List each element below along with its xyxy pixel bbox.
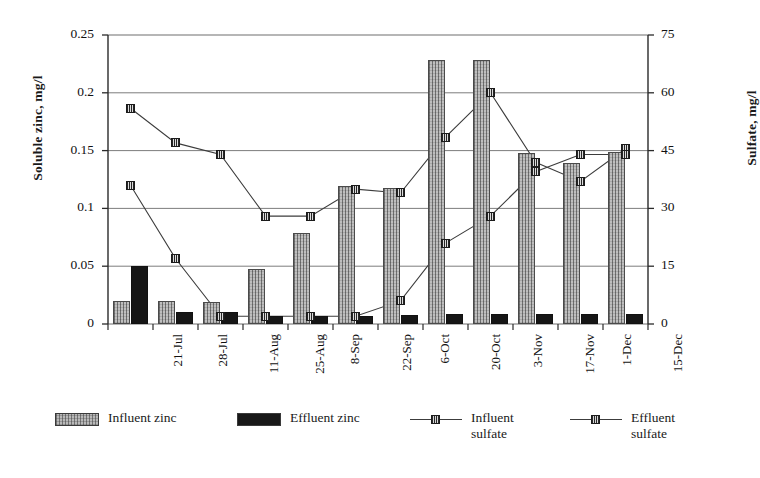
legend-label: Influent zinc [108,410,177,426]
influent-sulfate-line-icon [410,413,462,426]
legend-label: Effluent sulfate [631,410,675,441]
influent-zinc-bar [338,186,356,324]
right-axis-tick-label: 75 [661,26,717,42]
effluent-zinc-bar [536,314,554,324]
x-axis-tick-label: 15-Dec [670,334,686,372]
effluent-sulfate-marker [171,254,180,263]
influent-sulfate-marker [576,177,585,186]
x-axis-tick-label: 8-Sep [347,334,363,364]
x-axis-tick-label: 22-Sep [398,334,414,371]
effluent-zinc-bar [176,312,194,324]
influent-sulfate-line [131,93,626,216]
effluent-sulfate-marker [621,150,630,159]
effluent-sulfate-line [131,155,626,317]
influent-sulfate-marker [441,133,450,142]
legend-label: Influent sulfate [471,410,514,441]
effluent-sulfate-line-icon [570,413,622,426]
influent-zinc-bar [113,301,131,324]
right-axis-tick-label: 45 [661,142,717,158]
right-axis-tick-label: 60 [661,84,717,100]
x-axis-tick-label: 11-Aug [266,334,282,373]
legend-item: Influent zinc [55,410,177,426]
effluent-zinc-bar [401,315,419,324]
effluent-sulfate-marker [531,167,540,176]
effluent-sulfate-marker [441,239,450,248]
influent-zinc-swatch-icon [55,413,99,426]
legend-item: Influent sulfate [410,410,514,441]
influent-sulfate-marker [396,188,405,197]
right-axis-tick-label: 30 [661,199,717,215]
x-axis-tick-label: 17-Nov [581,334,597,374]
x-axis-tick-label: 1-Dec [618,334,634,366]
left-axis-tick-label: 0.1 [38,199,94,215]
influent-sulfate-marker [261,212,270,221]
effluent-zinc-swatch-icon [237,413,281,426]
plot-area [0,0,750,404]
left-axis-tick-label: 0 [38,315,94,331]
effluent-sulfate-marker [306,312,315,321]
effluent-zinc-bar [581,314,599,324]
left-axis-tick-label: 0.25 [38,26,94,42]
influent-zinc-bar [518,153,536,324]
effluent-zinc-bar [446,314,464,324]
effluent-sulfate-marker [396,296,405,305]
x-axis-tick-label: 20-Oct [488,334,504,370]
x-axis-tick-label: 25-Aug [311,334,327,374]
influent-sulfate-marker [171,138,180,147]
legend-item: Effluent sulfate [570,410,675,441]
influent-zinc-bar [293,233,311,324]
effluent-sulfate-marker [126,181,135,190]
chart-legend: Influent zincEffluent zincInfluent sulfa… [0,404,750,468]
influent-zinc-bar [608,152,626,324]
effluent-sulfate-marker [216,312,225,321]
left-axis-tick-label: 0.05 [38,257,94,273]
influent-sulfate-marker [216,150,225,159]
x-axis-tick-label: 21-Jul [169,334,185,367]
left-axis-tick-label: 0.2 [38,84,94,100]
effluent-sulfate-marker [351,312,360,321]
effluent-zinc-bar [131,266,149,324]
influent-sulfate-marker [351,185,360,194]
x-axis-tick-label: 6-Oct [436,334,452,364]
influent-zinc-bar [158,301,176,324]
left-axis-tick-label: 0.15 [38,142,94,158]
right-axis-tick-label: 15 [661,257,717,273]
influent-zinc-bar [428,60,446,324]
effluent-zinc-bar [491,314,509,324]
influent-sulfate-marker [486,88,495,97]
effluent-sulfate-marker [576,150,585,159]
x-axis-tick-label: 28-Jul [214,334,230,367]
influent-zinc-bar [473,60,491,324]
influent-sulfate-marker [531,158,540,167]
x-axis-tick-label: 3-Nov [530,334,546,367]
influent-zinc-bar [563,163,581,324]
right-axis-tick-label: 0 [661,315,717,331]
legend-item: Effluent zinc [237,410,360,426]
effluent-sulfate-marker [261,312,270,321]
effluent-zinc-bar [626,314,644,324]
effluent-sulfate-marker [486,212,495,221]
influent-sulfate-marker [126,104,135,113]
legend-label: Effluent zinc [290,410,360,426]
influent-sulfate-marker [306,212,315,221]
